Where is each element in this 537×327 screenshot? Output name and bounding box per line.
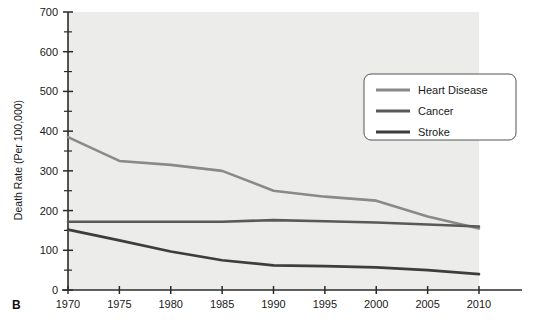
x-tick-label: 1975 [107,298,131,310]
plot-area-background [68,12,479,290]
y-tick-label: 500 [40,85,58,97]
x-tick-label: 2005 [415,298,439,310]
x-tick-label: 2000 [364,298,388,310]
x-tick-label: 1990 [261,298,285,310]
x-tick-label: 1970 [56,298,80,310]
y-tick-label: 300 [40,165,58,177]
chart-legend: Heart DiseaseCancerStroke [364,74,516,140]
death-rate-line-chart: 0100200300400500600700 19701975198019851… [0,0,537,327]
legend-label-cancer: Cancer [418,105,454,117]
legend-label-stroke: Stroke [418,126,450,138]
y-axis-title: Death Rate (Per 100,000) [12,100,24,220]
y-axis: 0100200300400500600700 [40,6,73,296]
y-tick-label: 100 [40,244,58,256]
y-tick-label: 0 [52,284,58,296]
panel-label: B [12,298,21,312]
x-axis: 197019751980198519901995200020052010 [56,286,522,310]
x-tick-label: 1995 [313,298,337,310]
plot-background-rect [68,12,479,290]
y-tick-label: 200 [40,205,58,217]
y-tick-label: 400 [40,125,58,137]
x-tick-label: 2010 [467,298,491,310]
y-tick-label: 700 [40,6,58,18]
x-tick-label: 1980 [159,298,183,310]
y-tick-label: 600 [40,46,58,58]
legend-label-heart-disease: Heart Disease [418,84,488,96]
chart-page: 0100200300400500600700 19701975198019851… [0,0,537,327]
x-tick-label: 1985 [210,298,234,310]
